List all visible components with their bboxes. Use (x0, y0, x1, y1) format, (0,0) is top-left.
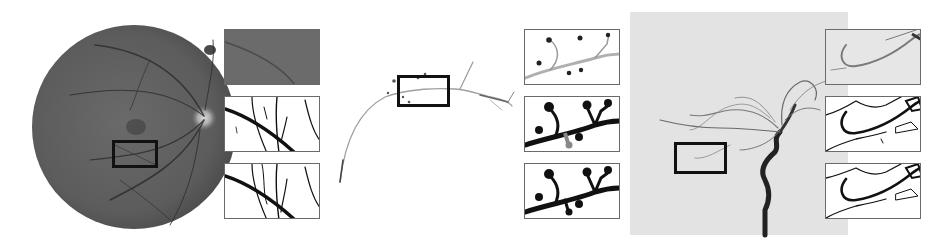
retina-panel: Retinal fundus image (0, 0, 330, 246)
retina-crop-prediction: Segmentation prediction (224, 96, 320, 152)
angiography-crop-prediction: Segmentation prediction (825, 96, 921, 152)
neuron-roi-box (397, 75, 450, 107)
neuron-crop-raw: Raw image crop (524, 29, 620, 85)
retina-roi-box (112, 140, 158, 168)
neuron-crop-prediction: Segmentation prediction (524, 96, 620, 152)
neuron-crop-ground-truth: Ground truth (524, 163, 620, 219)
angiography-crop-raw: Raw image crop (825, 29, 921, 85)
retina-crop-raw: Raw image crop (224, 29, 320, 85)
angiography-crop-ground-truth: Ground truth (825, 163, 921, 219)
angiography-panel: Cerebral angiography image Raw image cro… (630, 0, 949, 246)
retina-crop-ground-truth: Ground truth (224, 163, 320, 219)
angiography-roi-box (674, 142, 727, 174)
neuron-panel: Neuronal / fine vessel tracing image Raw… (330, 0, 630, 246)
